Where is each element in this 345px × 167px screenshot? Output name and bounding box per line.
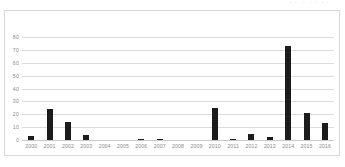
bar-slot [40,37,58,140]
bar-2014 [285,46,291,140]
x-tick-label-2008: 2008 [169,143,187,155]
bar-2000 [28,136,34,140]
x-tick-label-2007: 2007 [151,143,169,155]
x-tick-label-2016: 2016 [316,143,334,155]
bar-2001 [47,109,53,140]
bar-slot [151,37,169,140]
bar-slot [242,37,260,140]
y-tick-label: 20 [13,111,19,117]
bar-series [22,37,334,140]
x-tick-label-2006: 2006 [132,143,150,155]
gridline-0 [22,140,334,141]
y-tick-label: 40 [13,86,19,92]
x-tick-label-2013: 2013 [261,143,279,155]
chart-page: ・・ ・ ・・・・ 80706050403020100 200020012002… [0,0,345,167]
bar-slot [77,37,95,140]
x-tick-label-2009: 2009 [187,143,205,155]
bar-slot [169,37,187,140]
bar-slot [279,37,297,140]
x-tick-label-2010: 2010 [206,143,224,155]
x-tick-label-2011: 2011 [224,143,242,155]
x-tick-label-2004: 2004 [95,143,113,155]
bar-2006 [138,139,144,140]
x-tick-label-2005: 2005 [114,143,132,155]
bar-2002 [65,122,71,140]
y-tick-label: 50 [13,73,19,79]
bar-2016 [322,123,328,140]
y-tick-label: 70 [13,47,19,53]
bar-slot [95,37,113,140]
bar-2003 [83,135,89,140]
x-tick-label-2001: 2001 [40,143,58,155]
bar-2015 [304,113,310,140]
bar-slot [132,37,150,140]
y-tick-label: 80 [13,34,19,40]
bar-slot [297,37,315,140]
bar-2011 [230,139,236,140]
bar-2010 [212,108,218,140]
x-tick-label-2012: 2012 [242,143,260,155]
bar-slot [22,37,40,140]
bar-slot [316,37,334,140]
y-tick-label: 30 [13,98,19,104]
bar-slot [206,37,224,140]
y-tick-label: 0 [16,137,19,143]
bar-2012 [248,134,254,140]
x-tick-label-2015: 2015 [297,143,315,155]
plot-area: 80706050403020100 [22,37,334,140]
x-tick-label-2000: 2000 [22,143,40,155]
y-tick-label: 60 [13,60,19,66]
x-tick-label-2002: 2002 [59,143,77,155]
bar-slot [187,37,205,140]
bar-slot [114,37,132,140]
bar-slot [261,37,279,140]
x-tick-label-2003: 2003 [77,143,95,155]
bar-2007 [157,139,163,140]
x-tick-label-2014: 2014 [279,143,297,155]
top-caption-text: ・・ ・ ・・・・ [288,0,331,5]
bar-slot [224,37,242,140]
x-axis-tick-labels: 2000200120022003200420052006200720082009… [22,143,334,155]
y-tick-label: 10 [13,124,19,130]
bar-2013 [267,137,273,140]
bar-slot [59,37,77,140]
